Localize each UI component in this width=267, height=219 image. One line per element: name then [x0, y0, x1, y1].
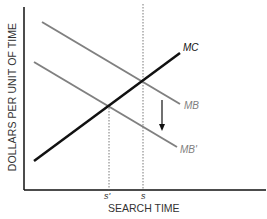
mc-line	[34, 53, 180, 161]
chart-plot	[0, 0, 267, 219]
shift-down-arrow-icon	[159, 100, 165, 131]
mb-label: MB	[184, 100, 199, 111]
chart: DOLLARS PER UNIT OF TIME SEARCH TIME s' …	[0, 0, 267, 219]
mb-prime-line	[34, 62, 177, 147]
mc-label: MC	[183, 42, 199, 53]
tick-s: s	[141, 191, 146, 201]
x-axis-label: SEARCH TIME	[108, 202, 180, 214]
mb-line	[42, 22, 180, 104]
tick-s-prime: s'	[104, 191, 110, 201]
mb-prime-label: MB'	[180, 144, 197, 155]
y-axis-label: DOLLARS PER UNIT OF TIME	[6, 22, 20, 172]
